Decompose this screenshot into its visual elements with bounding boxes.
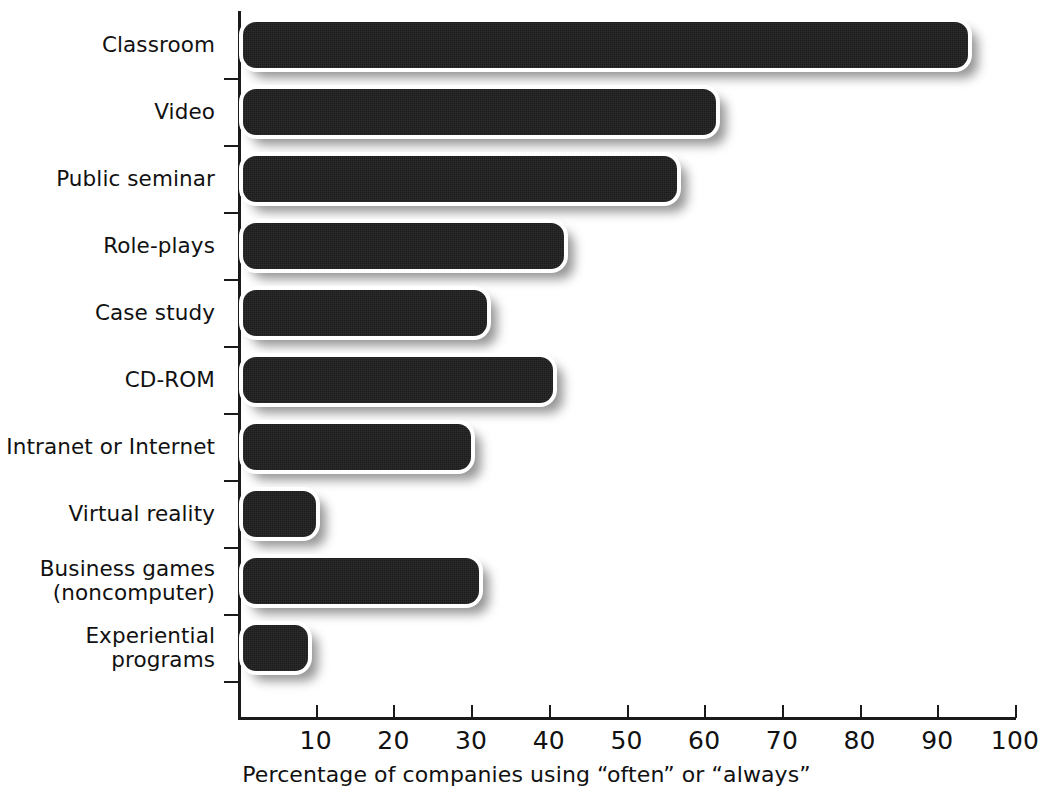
y-axis-tick <box>224 547 238 549</box>
x-axis-tick <box>704 705 706 718</box>
bar <box>243 424 471 470</box>
category-label: Virtual reality <box>69 501 215 525</box>
x-axis-tick-label: 30 <box>455 726 487 755</box>
x-axis-tick <box>782 705 784 718</box>
x-axis-tick <box>471 705 473 718</box>
y-axis-tick <box>224 346 238 348</box>
y-axis-line <box>238 11 241 720</box>
bar <box>243 22 968 68</box>
category-label: Experiential programs <box>85 623 215 671</box>
x-axis-tick <box>393 705 395 718</box>
category-label: Business games (noncomputer) <box>40 556 215 604</box>
y-axis-tick <box>224 480 238 482</box>
category-label: Video <box>154 99 215 123</box>
x-axis-tick-label: 50 <box>610 726 642 755</box>
x-axis-tick <box>1015 705 1017 718</box>
x-axis-tick <box>316 705 318 718</box>
x-axis-tick <box>860 705 862 718</box>
category-label: CD-ROM <box>125 367 215 391</box>
y-axis-tick <box>224 413 238 415</box>
bar <box>243 156 677 202</box>
bar <box>243 558 479 604</box>
x-axis-tick <box>238 705 240 718</box>
category-label: Case study <box>95 300 215 324</box>
y-axis-tick <box>224 145 238 147</box>
x-axis-tick-label: 80 <box>843 726 875 755</box>
x-axis-tick-label: 10 <box>300 726 332 755</box>
x-axis-tick-label: 20 <box>377 726 409 755</box>
category-label: Role-plays <box>103 233 215 257</box>
category-label: Public seminar <box>56 166 215 190</box>
x-axis-tick <box>549 705 551 718</box>
x-axis-tick-label: 90 <box>921 726 953 755</box>
x-axis-tick <box>937 705 939 718</box>
x-axis-tick <box>627 705 629 718</box>
bar <box>243 491 316 537</box>
bar <box>243 625 308 671</box>
x-axis-tick-label: 60 <box>688 726 720 755</box>
bar <box>243 89 716 135</box>
x-axis-tick-label: 40 <box>533 726 565 755</box>
y-axis-tick <box>224 78 238 80</box>
y-axis-tick <box>224 212 238 214</box>
bar <box>243 290 487 336</box>
x-axis-caption: Percentage of companies using “often” or… <box>0 762 1053 787</box>
y-axis-tick <box>224 279 238 281</box>
x-axis-tick-label: 100 <box>991 726 1039 755</box>
category-label: Intranet or Internet <box>6 434 215 458</box>
y-axis-tick <box>224 681 238 683</box>
bar-chart: ClassroomVideoPublic seminarRole-playsCa… <box>0 0 1053 796</box>
x-axis-tick-label: 70 <box>766 726 798 755</box>
category-label: Classroom <box>102 32 215 56</box>
y-axis-tick <box>224 614 238 616</box>
bar <box>243 223 564 269</box>
bar <box>243 357 553 403</box>
